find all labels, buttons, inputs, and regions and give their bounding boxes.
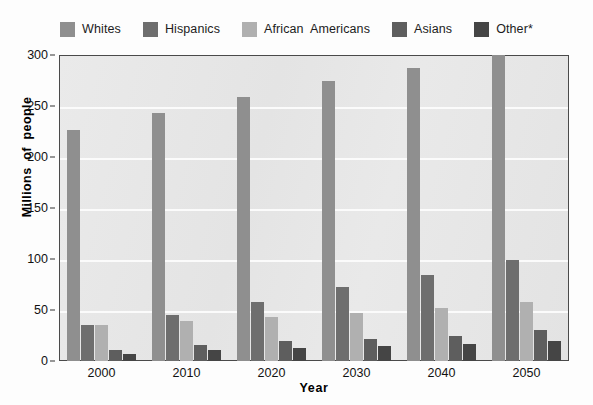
y-tick-mark xyxy=(50,259,55,260)
legend-swatch-icon xyxy=(60,22,75,37)
legend-item[interactable]: Asians xyxy=(392,22,452,37)
plot-area xyxy=(59,55,569,361)
y-tick-mark xyxy=(50,310,55,311)
legend-item[interactable]: Other* xyxy=(474,22,533,37)
plot-background xyxy=(60,56,568,360)
legend-swatch-icon xyxy=(392,22,407,37)
y-tick-mark xyxy=(50,106,55,107)
x-tick-label: 2050 xyxy=(513,366,541,380)
gridline xyxy=(60,158,568,160)
gridline xyxy=(60,260,568,262)
gridline xyxy=(60,209,568,211)
y-tick-label: 50 xyxy=(0,303,48,317)
y-tick-label: 200 xyxy=(0,150,48,164)
gridline xyxy=(60,311,568,313)
y-axis-ticks: 050100150200250300 xyxy=(0,55,55,361)
y-tick-label: 100 xyxy=(0,252,48,266)
chart-legend: WhitesHispanicsAfrican AmericansAsiansOt… xyxy=(0,18,593,40)
x-axis-title: Year xyxy=(59,381,569,395)
x-tick-label: 2030 xyxy=(343,366,371,380)
legend-label: Asians xyxy=(414,22,452,36)
y-tick-mark xyxy=(50,361,55,362)
legend-label: Hispanics xyxy=(165,22,220,36)
y-tick-label: 0 xyxy=(0,354,48,368)
y-tick-label: 250 xyxy=(0,99,48,113)
y-tick-mark xyxy=(50,208,55,209)
x-tick-label: 2000 xyxy=(88,366,116,380)
legend-item[interactable]: Whites xyxy=(60,22,121,37)
legend-swatch-icon xyxy=(242,22,257,37)
x-tick-label: 2010 xyxy=(173,366,201,380)
legend-label: Whites xyxy=(82,22,121,36)
legend-item[interactable]: Hispanics xyxy=(143,22,220,37)
gridline xyxy=(60,107,568,109)
x-axis-ticks: 200020102020203020402050 xyxy=(59,361,569,383)
x-tick-label: 2020 xyxy=(258,366,286,380)
legend-label: Other* xyxy=(496,22,533,36)
y-tick-mark xyxy=(50,55,55,56)
y-tick-label: 150 xyxy=(0,201,48,215)
chart-figure: WhitesHispanicsAfrican AmericansAsiansOt… xyxy=(0,0,593,405)
legend-label: African Americans xyxy=(264,22,370,36)
legend-swatch-icon xyxy=(474,22,489,37)
x-tick-label: 2040 xyxy=(428,366,456,380)
y-tick-label: 300 xyxy=(0,48,48,62)
legend-item[interactable]: African Americans xyxy=(242,22,370,37)
legend-swatch-icon xyxy=(143,22,158,37)
y-tick-mark xyxy=(50,157,55,158)
